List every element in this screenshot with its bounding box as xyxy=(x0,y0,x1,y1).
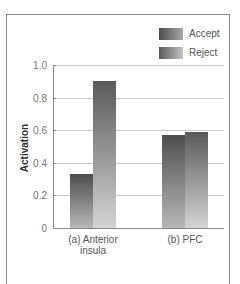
legend: Accept Reject xyxy=(159,24,220,62)
legend-label-accept: Accept xyxy=(189,28,220,39)
gridline xyxy=(53,98,224,99)
y-tick-label: 0 xyxy=(17,223,47,234)
y-tick-label: 0.4 xyxy=(17,158,47,169)
gridline xyxy=(53,130,224,131)
legend-swatch-reject xyxy=(159,47,183,59)
y-axis xyxy=(53,65,54,229)
bar-accept-pfc xyxy=(162,135,185,228)
bar-reject-pfc xyxy=(185,132,208,228)
y-tick-label: 1.0 xyxy=(17,60,47,71)
x-category-label: (b) PFC xyxy=(168,234,203,245)
legend-item-reject: Reject xyxy=(159,43,220,62)
x-axis xyxy=(53,228,224,229)
legend-item-accept: Accept xyxy=(159,24,220,43)
legend-swatch-accept xyxy=(159,28,183,40)
legend-label-reject: Reject xyxy=(189,47,217,58)
bar-accept-anterior-insula xyxy=(70,174,93,228)
y-tick-label: 0.2 xyxy=(17,190,47,201)
y-tick-label: 0.6 xyxy=(17,125,47,136)
y-tick-label: 0.8 xyxy=(17,93,47,104)
x-category-label: (a) Anterior insula xyxy=(68,234,117,256)
gridline xyxy=(53,65,224,66)
bar-reject-anterior-insula xyxy=(93,81,116,228)
